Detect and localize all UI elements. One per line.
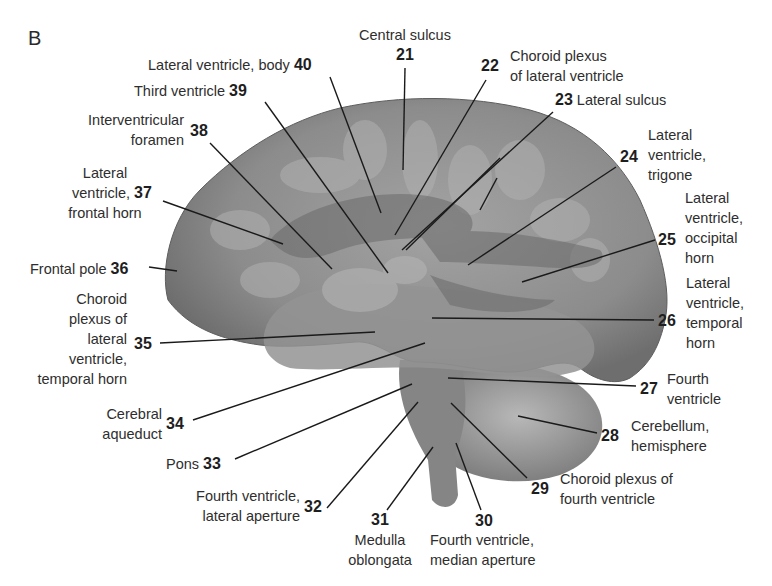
label-text: ventricle, [10, 349, 127, 369]
label-number-38: 38 [190, 121, 208, 141]
label-text: Lateral sulcus [577, 92, 666, 108]
label-lateral-ventricle-occipital-horn: 25 Lateral ventricle, occipital horn [658, 188, 743, 268]
label-number: 28 [601, 426, 619, 446]
brainstem-shape [399, 360, 465, 507]
label-number: 40 [294, 56, 312, 73]
label-text: hemisphere [631, 436, 709, 456]
label-text: median aperture [430, 550, 536, 570]
label-text: lateral [10, 329, 127, 349]
label-text: temporal [686, 313, 744, 333]
label-number: 26 [658, 311, 676, 331]
label-text: occipital [685, 228, 743, 248]
label-lateral-ventricle-body: Lateral ventricle, body 40 [148, 55, 312, 75]
label-number: 31 [335, 510, 425, 530]
label-cerebral-aqueduct: Cerebral aqueduct [80, 404, 162, 444]
panel-label: B [28, 27, 41, 50]
label-text: horn [685, 248, 743, 268]
label-number: 27 [640, 379, 658, 399]
label-text: Frontal pole [30, 261, 107, 277]
label-number: 37 [134, 184, 152, 201]
label-text: Fourth ventricle, [430, 530, 536, 550]
label-pons: Pons 33 [166, 454, 221, 474]
label-fourth-ventricle-median-aperture: 30 Fourth ventricle, median aperture [430, 512, 536, 570]
label-text: Choroid plexus [510, 46, 624, 66]
label-number: 25 [658, 230, 676, 250]
label-text: ventricle, [685, 208, 743, 228]
label-text: foramen [70, 130, 184, 150]
brain-ventricles-diagram: B Central sulcus 21 22 Choroid plexus of… [0, 0, 772, 586]
label-text: fourth ventricle [560, 489, 673, 509]
label-text: Interventricular [70, 110, 184, 130]
label-cerebellum-hemisphere: 28 Cerebellum, hemisphere [601, 416, 709, 456]
label-text: Choroid plexus of [560, 469, 673, 489]
label-text: Fourth ventricle, [150, 486, 300, 506]
label-number: 24 [620, 147, 638, 167]
label-text: Fourth [667, 369, 721, 389]
label-third-ventricle: Third ventricle 39 [134, 81, 247, 101]
label-number: 36 [111, 260, 129, 277]
label-number: 29 [531, 479, 549, 499]
label-text: ventricle, [72, 185, 130, 201]
label-text: Cerebellum, [631, 416, 709, 436]
label-text: ventricle, [686, 293, 744, 313]
label-choroid-plexus-temporal-horn: Choroid plexus of lateral ventricle, tem… [10, 289, 127, 389]
label-text: aqueduct [80, 424, 162, 444]
label-number: 21 [340, 45, 470, 65]
label-fourth-ventricle-lateral-aperture: Fourth ventricle, lateral aperture [150, 486, 300, 526]
label-text: Lateral [685, 188, 743, 208]
label-choroid-plexus-fourth-ventricle: 29 Choroid plexus of fourth ventricle [531, 469, 673, 509]
label-text: ventricle [667, 389, 721, 409]
label-text: trigone [648, 165, 706, 185]
label-text: plexus of [10, 309, 127, 329]
label-central-sulcus: Central sulcus 21 [340, 25, 470, 65]
label-fourth-ventricle: 27 Fourth ventricle [640, 369, 721, 409]
label-number-35: 35 [134, 334, 152, 354]
label-text: Lateral [648, 125, 706, 145]
label-text: temporal horn [10, 369, 127, 389]
label-frontal-pole: Frontal pole 36 [30, 259, 128, 279]
label-text: Medulla [335, 530, 425, 550]
label-text: Third ventricle [134, 83, 225, 99]
label-number: 22 [481, 56, 499, 76]
label-lateral-ventricle-temporal-horn: 26 Lateral ventricle, temporal horn [658, 273, 744, 353]
label-number: 33 [203, 455, 221, 472]
label-lateral-ventricle-frontal-horn: Lateral ventricle, 37 frontal horn [60, 163, 150, 223]
label-text: Pons [166, 456, 199, 472]
label-text: Lateral ventricle, body [148, 57, 290, 73]
label-lateral-ventricle-trigone: 24 Lateral ventricle, trigone [620, 125, 706, 185]
label-number: 30 [475, 512, 536, 530]
label-text: Choroid [10, 289, 127, 309]
label-medulla-oblongata: 31 Medulla oblongata [335, 510, 425, 570]
label-number: 23 [555, 91, 573, 108]
label-text: Cerebral [80, 404, 162, 424]
label-number: 39 [229, 82, 247, 99]
label-text: frontal horn [60, 203, 150, 223]
label-text: of lateral ventricle [510, 66, 624, 86]
label-lateral-sulcus: 23 Lateral sulcus [555, 90, 666, 110]
label-number-32: 32 [304, 497, 322, 517]
label-interventricular-foramen: Interventricular foramen [70, 110, 184, 150]
label-choroid-plexus-lateral-ventricle: 22 Choroid plexus of lateral ventricle [481, 46, 624, 86]
label-text: Central sulcus [340, 25, 470, 45]
label-text: lateral aperture [150, 506, 300, 526]
label-number-34: 34 [166, 414, 184, 434]
label-text: Lateral [686, 273, 744, 293]
label-text: Lateral [60, 163, 150, 183]
label-text: ventricle, [648, 145, 706, 165]
label-text: oblongata [335, 550, 425, 570]
label-text: horn [686, 333, 744, 353]
